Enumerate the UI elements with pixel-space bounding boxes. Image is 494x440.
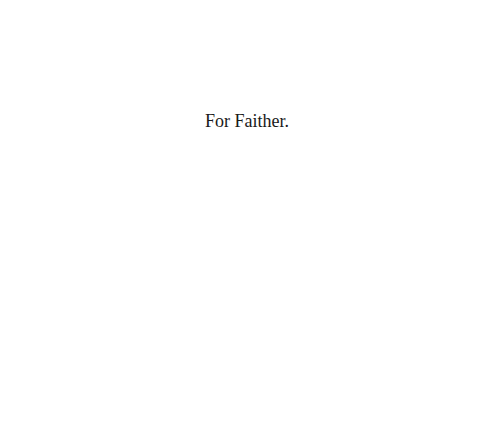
dedication-text: For Faither. (0, 109, 494, 133)
document-page: For Faither. (0, 0, 494, 440)
